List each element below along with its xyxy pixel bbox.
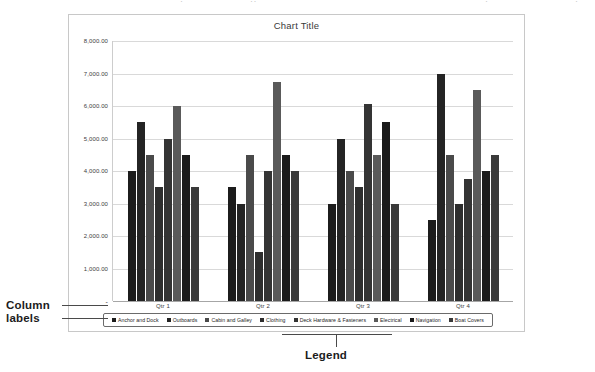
x-axis-category-label[interactable]: Qtr 2 bbox=[213, 303, 313, 309]
bar[interactable] bbox=[464, 179, 472, 301]
bar[interactable] bbox=[164, 139, 172, 302]
legend-label: Anchor and Dock bbox=[118, 317, 159, 323]
scan-fragment: ·· bbox=[250, 0, 257, 6]
y-axis-tick-label: 6,000.00 bbox=[84, 103, 108, 109]
x-axis-labels[interactable]: Qtr 1Qtr 2Qtr 3Qtr 4 bbox=[113, 303, 513, 309]
legend-item[interactable]: Boat Covers bbox=[449, 317, 484, 323]
legend-label: Navigation bbox=[416, 317, 441, 323]
y-axis-tick-label: 8,000.00 bbox=[84, 38, 108, 44]
bar[interactable] bbox=[437, 74, 445, 302]
bar[interactable] bbox=[137, 122, 145, 301]
y-axis-tick-label: - bbox=[106, 298, 108, 305]
bar[interactable] bbox=[364, 104, 372, 301]
legend-label: Cabin and Galley bbox=[211, 317, 252, 323]
legend-swatch-icon bbox=[167, 318, 171, 322]
legend-swatch-icon bbox=[294, 318, 298, 322]
bar[interactable] bbox=[455, 204, 463, 302]
gridline bbox=[113, 301, 513, 302]
plot-area: -1,000.002,000.003,000.004,000.005,000.0… bbox=[113, 41, 513, 301]
screenshot-page: · ·· · · Chart Title -1,000.002,000.003,… bbox=[0, 0, 595, 372]
legend-item[interactable]: Clothing bbox=[260, 317, 285, 323]
scan-fragment: · bbox=[485, 0, 488, 6]
legend-swatch-icon bbox=[112, 318, 116, 322]
bar[interactable] bbox=[337, 139, 345, 302]
bar[interactable] bbox=[482, 171, 490, 301]
bar-group bbox=[313, 41, 413, 301]
bar[interactable] bbox=[291, 171, 299, 301]
bar[interactable] bbox=[237, 204, 245, 302]
y-axis-tick-label: 2,000.00 bbox=[84, 233, 108, 239]
bar[interactable] bbox=[264, 171, 272, 301]
y-axis-tick-label: 7,000.00 bbox=[84, 71, 108, 77]
annotation-legend: Legend bbox=[305, 349, 347, 362]
bar[interactable] bbox=[428, 220, 436, 301]
bar[interactable] bbox=[246, 155, 254, 301]
bar-group bbox=[413, 41, 513, 301]
legend-swatch-icon bbox=[374, 318, 378, 322]
scan-fragment: · bbox=[180, 0, 183, 6]
y-axis-tick-label: 1,000.00 bbox=[84, 266, 108, 272]
y-axis-tick-label: 5,000.00 bbox=[84, 136, 108, 142]
bar-groups bbox=[113, 41, 513, 301]
chart-title[interactable]: Chart Title bbox=[69, 20, 524, 31]
legend-swatch-icon bbox=[205, 318, 209, 322]
legend-label: Clothing bbox=[266, 317, 285, 323]
y-axis-tick-label: 4,000.00 bbox=[84, 168, 108, 174]
legend-label: Boat Covers bbox=[455, 317, 484, 323]
legend-item[interactable]: Electrical bbox=[374, 317, 402, 323]
bar[interactable] bbox=[491, 155, 499, 301]
bar[interactable] bbox=[346, 171, 354, 301]
y-axis-tick-label: 3,000.00 bbox=[84, 201, 108, 207]
annotation-column-labels: Column labels bbox=[6, 299, 64, 325]
bar[interactable] bbox=[328, 204, 336, 302]
legend-item[interactable]: Anchor and Dock bbox=[112, 317, 159, 323]
bar-group bbox=[213, 41, 313, 301]
x-axis-category-label[interactable]: Qtr 1 bbox=[113, 303, 213, 309]
bar[interactable] bbox=[228, 187, 236, 301]
bar[interactable] bbox=[282, 155, 290, 301]
legend-item[interactable]: Deck Hardware & Fasteners bbox=[294, 317, 366, 323]
chart-container[interactable]: Chart Title -1,000.002,000.003,000.004,0… bbox=[68, 14, 525, 332]
leader-line-column-labels-2 bbox=[62, 318, 108, 319]
legend-swatch-icon bbox=[260, 318, 264, 322]
bar[interactable] bbox=[128, 171, 136, 301]
bar[interactable] bbox=[273, 82, 281, 301]
bar[interactable] bbox=[146, 155, 154, 301]
bar[interactable] bbox=[255, 252, 263, 301]
bar[interactable] bbox=[355, 187, 363, 301]
bar-group bbox=[113, 41, 213, 301]
legend-label: Deck Hardware & Fasteners bbox=[300, 317, 366, 323]
chart-legend[interactable]: Anchor and DockOutboardsCabin and Galley… bbox=[103, 313, 493, 327]
scan-fragment: · bbox=[575, 0, 578, 6]
legend-swatch-icon bbox=[410, 318, 414, 322]
annotation-column-labels-line1: Column bbox=[6, 299, 64, 312]
bar[interactable] bbox=[191, 187, 199, 301]
scan-artifact-strip: · ·· · · bbox=[0, 0, 595, 10]
bar[interactable] bbox=[182, 155, 190, 301]
legend-label: Electrical bbox=[380, 317, 402, 323]
legend-swatch-icon bbox=[449, 318, 453, 322]
annotation-column-labels-line2: labels bbox=[6, 312, 64, 325]
leader-line-column-labels bbox=[62, 305, 108, 306]
bar[interactable] bbox=[173, 106, 181, 301]
bar[interactable] bbox=[446, 155, 454, 301]
bar[interactable] bbox=[473, 90, 481, 301]
bar[interactable] bbox=[391, 204, 399, 302]
legend-item[interactable]: Outboards bbox=[167, 317, 198, 323]
bar[interactable] bbox=[155, 187, 163, 301]
x-axis-category-label[interactable]: Qtr 3 bbox=[313, 303, 413, 309]
leader-line-legend-v bbox=[336, 334, 337, 347]
bar[interactable] bbox=[373, 155, 381, 301]
legend-label: Outboards bbox=[173, 317, 198, 323]
legend-item[interactable]: Cabin and Galley bbox=[205, 317, 252, 323]
x-axis-category-label[interactable]: Qtr 4 bbox=[413, 303, 513, 309]
bar[interactable] bbox=[382, 122, 390, 301]
legend-item[interactable]: Navigation bbox=[410, 317, 441, 323]
